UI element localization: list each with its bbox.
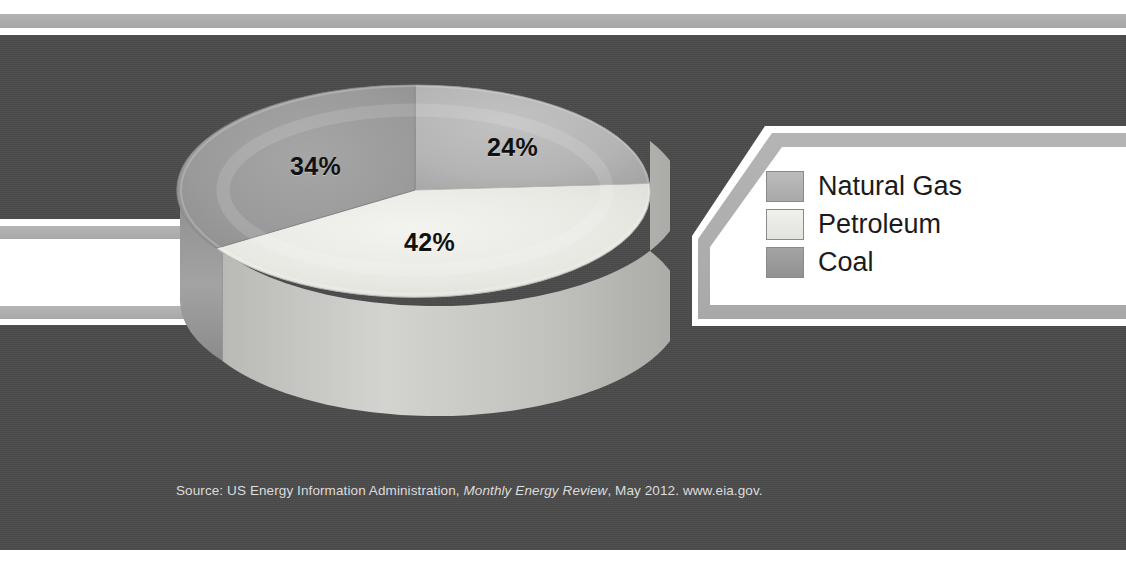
source-citation: Source: US Energy Information Administra… (176, 483, 763, 498)
legend-item-natural-gas[interactable]: Natural Gas (766, 167, 962, 205)
slice-label-petroleum: 42% (404, 228, 455, 257)
top-banner-gray-stripe (0, 14, 1126, 28)
slice-label-coal: 34% (290, 152, 341, 181)
legend-label-natural-gas: Natural Gas (818, 173, 962, 200)
legend-swatch-natural-gas (766, 171, 804, 202)
legend-item-coal[interactable]: Coal (766, 243, 962, 281)
source-prefix: Source: US Energy Information Administra… (176, 483, 463, 498)
source-publication-title: Monthly Energy Review (463, 483, 607, 498)
legend-label-coal: Coal (818, 249, 874, 276)
legend-label-petroleum: Petroleum (818, 211, 941, 238)
legend-swatch-coal (766, 247, 804, 278)
slice-label-natural-gas: 24% (487, 133, 538, 162)
pie-chart-graphic (170, 75, 670, 455)
legend-item-petroleum[interactable]: Petroleum (766, 205, 962, 243)
bottom-banner-white (0, 550, 1126, 588)
chart-legend: Natural Gas Petroleum Coal (766, 167, 962, 281)
legend-swatch-petroleum (766, 209, 804, 240)
top-banner-white-line (0, 28, 1126, 35)
top-banner-white (0, 0, 1126, 14)
source-suffix: , May 2012. www.eia.gov. (607, 483, 762, 498)
infographic-pie-chart: 24% 42% 34% Natural Gas Petroleum Coal S… (0, 0, 1126, 588)
